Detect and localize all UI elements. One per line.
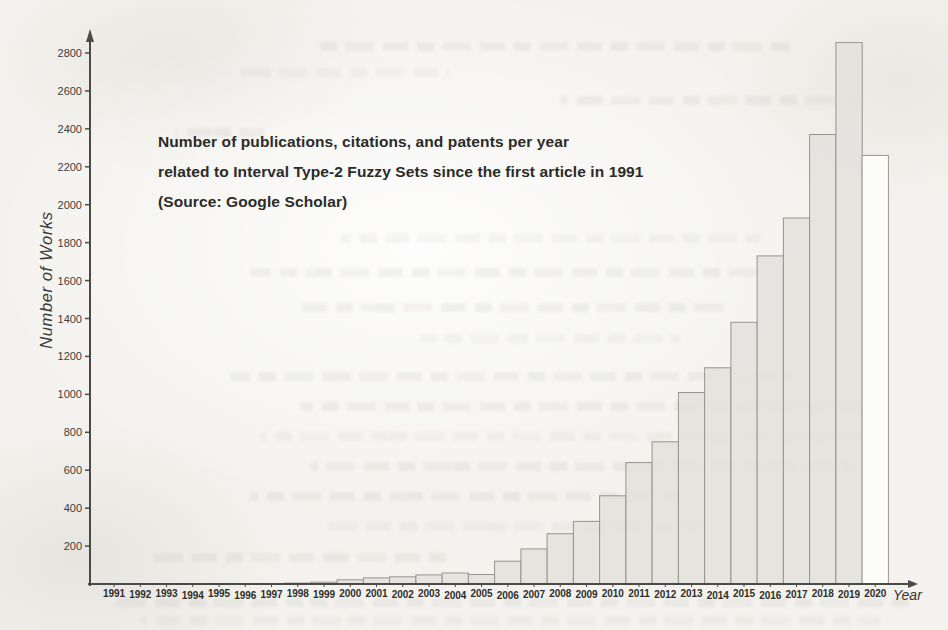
x-tick-label: 2014 [707,590,730,601]
x-tick-label: 1991 [103,588,126,599]
y-tick-label: 600 [64,464,82,476]
bar-2003 [416,575,442,584]
x-tick-label: 1992 [129,589,152,600]
chart-title-line-1: Number of publications, citations, and p… [158,127,644,157]
bar-2006 [495,561,521,584]
x-tick-label: 2009 [575,589,598,600]
x-tick-label: 2004 [444,590,467,601]
x-tick-label: 2001 [365,588,388,599]
bar-2019 [836,43,862,584]
y-tick-label: 1000 [58,388,82,400]
bar-2014 [705,368,731,584]
x-tick-label: 1993 [155,588,178,599]
x-tick-label: 2002 [392,589,415,600]
x-tick-label: 2017 [785,589,808,600]
x-tick-label: 2008 [549,588,572,599]
bar-chart: 2004006008001000120014001600180020002200… [0,0,948,630]
x-tick-label: 1995 [208,588,231,599]
y-tick-label: 2600 [58,85,82,97]
y-tick-label: 2200 [58,161,82,173]
x-tick-label: 2016 [759,590,782,601]
x-tick-label: 1996 [234,590,257,601]
chart-title: Number of publications, citations, and p… [158,127,644,217]
x-tick-label: 2010 [602,588,625,599]
x-tick-label: 2006 [497,590,520,601]
x-tick-label: 2007 [523,589,546,600]
y-tick-label: 1400 [58,313,82,325]
bar-2018 [810,135,836,585]
y-axis-label: Number of Works [37,211,56,348]
y-tick-label: 1800 [58,237,82,249]
x-tick-label: 2003 [418,588,441,599]
bar-2007 [521,549,547,584]
bar-2011 [626,463,652,584]
bar-2012 [652,442,678,584]
y-tick-label: 400 [64,502,82,514]
bar-2013 [678,393,704,585]
chart-title-line-2: related to Interval Type-2 Fuzzy Sets si… [158,157,644,187]
bar-2005 [468,575,494,585]
x-tick-label: 2015 [733,588,756,599]
x-tick-label: 2013 [680,588,703,599]
x-axis-label: Year [893,587,922,603]
x-tick-label: 2020 [864,588,887,599]
bar-2009 [573,521,599,584]
x-tick-label: 2018 [812,588,835,599]
x-tick-label: 2011 [628,588,650,599]
bar-2004 [442,573,468,584]
chart-title-line-3: (Source: Google Scholar) [158,187,644,217]
x-tick-label: 2012 [654,589,677,600]
bar-2010 [600,496,626,584]
y-tick-label: 1600 [58,275,82,287]
y-tick-label: 2400 [58,123,82,135]
bar-2015 [731,322,757,584]
bar-2020 [862,155,888,584]
x-tick-label: 1999 [313,589,336,600]
x-tick-label: 1994 [182,590,205,601]
bar-2002 [390,577,416,584]
y-tick-label: 200 [64,540,82,552]
x-tick-label: 1997 [260,589,283,600]
x-tick-label: 1998 [287,588,310,599]
x-tick-label: 2019 [838,589,861,600]
y-tick-label: 1200 [58,350,82,362]
y-tick-label: 2000 [58,199,82,211]
chart-plot: 2004006008001000120014001600180020002200… [0,0,948,630]
y-tick-label: 800 [64,426,82,438]
y-tick-label: 2800 [58,47,82,59]
bar-2008 [547,534,573,584]
y-axis-arrow-icon [86,29,94,42]
scanned-page: 2004006008001000120014001600180020002200… [0,0,948,630]
bar-2017 [783,218,809,584]
x-tick-label: 2000 [339,588,362,599]
bar-2016 [757,256,783,584]
x-tick-label: 2005 [470,588,493,599]
